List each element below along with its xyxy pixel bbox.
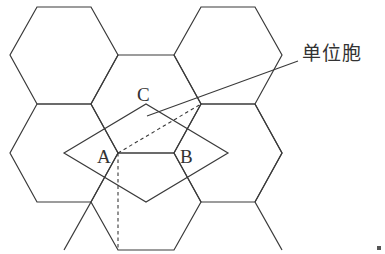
- unit-cell-label: 单位胞: [302, 38, 362, 65]
- label-a: A: [97, 146, 111, 167]
- hexagon-top-left: [10, 7, 118, 104]
- hexagon-bottom-left-edge: [64, 202, 91, 250]
- corner-mark: [377, 246, 381, 250]
- hexagon-bottom-right-partial: [255, 104, 282, 202]
- hexagon-bottom-right-edge: [255, 202, 282, 250]
- unit-cell-leader-line: [147, 61, 298, 116]
- label-b: B: [180, 146, 193, 167]
- label-c: C: [137, 84, 150, 105]
- hexagon-top-right: [174, 7, 282, 104]
